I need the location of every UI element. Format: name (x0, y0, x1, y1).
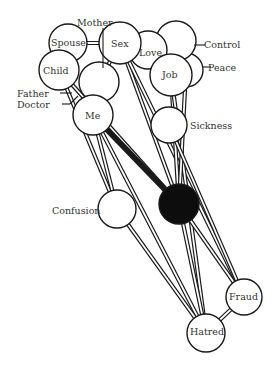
node-sickness (151, 107, 187, 143)
label-confusion: Confusion (52, 205, 101, 216)
node-dark (159, 184, 199, 224)
label-sex: Sex (111, 38, 129, 49)
label-doctor: Doctor (17, 99, 50, 110)
label-sickness: Sickness (190, 120, 232, 131)
diagram-canvas: Mother Spouse Sex Love Control Peace Job… (0, 0, 273, 368)
network-diagram: Mother Spouse Sex Love Control Peace Job… (0, 0, 273, 368)
label-hatred: Hatred (190, 326, 224, 337)
label-father: Father (17, 88, 49, 99)
label-job: Job (161, 69, 178, 80)
label-peace: Peace (208, 62, 237, 73)
label-control: Control (204, 39, 240, 50)
label-love: Love (139, 47, 162, 58)
label-me: Me (85, 110, 101, 121)
label-child: Child (43, 65, 69, 76)
node-confusion (98, 190, 136, 228)
label-fraud: Fraud (229, 291, 258, 302)
label-spouse: Spouse (51, 37, 86, 48)
label-mother: Mother (77, 17, 113, 28)
